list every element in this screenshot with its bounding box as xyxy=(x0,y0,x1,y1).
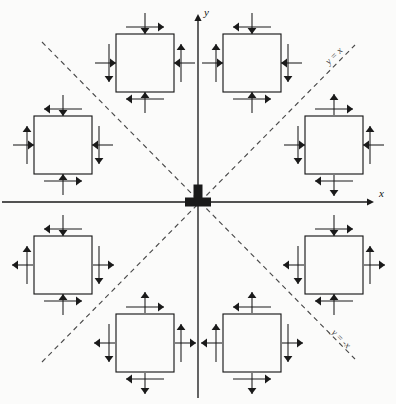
origin-marker-stem xyxy=(194,185,203,201)
x-axis-label: x xyxy=(378,187,384,199)
stress-symmetry-diagram: y x y = x y = -x xyxy=(0,0,396,404)
y-axis-label: y xyxy=(203,6,209,18)
